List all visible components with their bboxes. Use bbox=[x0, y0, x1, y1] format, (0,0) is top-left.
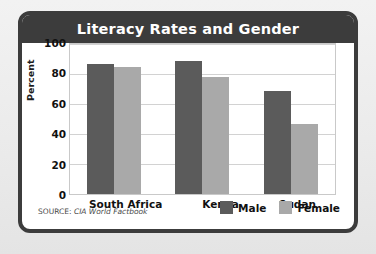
bar-female bbox=[202, 77, 229, 194]
bar-male bbox=[175, 61, 202, 195]
bar-male bbox=[264, 91, 291, 195]
legend-swatch-female bbox=[279, 201, 292, 214]
y-tick-label: 20 bbox=[51, 159, 66, 171]
legend-item: Male bbox=[220, 201, 266, 214]
bar-female bbox=[291, 124, 318, 195]
bar-group bbox=[87, 44, 141, 194]
y-tick-label: 60 bbox=[51, 98, 66, 110]
chart-legend: MaleFemale bbox=[220, 201, 340, 214]
legend-label: Male bbox=[238, 202, 266, 214]
y-axis-ticks: 020406080100 bbox=[36, 43, 66, 195]
chart-figure: Literacy Rates and Gender Percent 020406… bbox=[18, 11, 358, 233]
bar-group bbox=[264, 44, 318, 194]
y-tick-label: 80 bbox=[51, 67, 66, 79]
y-tick-label: 100 bbox=[44, 37, 66, 49]
source-note: SOURCE: CIA World Factbook bbox=[38, 207, 147, 216]
source-text: CIA World Factbook bbox=[74, 207, 148, 216]
page-title: Literacy Rates and Gender bbox=[77, 22, 299, 37]
chart-footer: SOURCE: CIA World Factbook MaleFemale bbox=[22, 199, 354, 229]
legend-label: Female bbox=[297, 202, 340, 214]
page-background: Literacy Rates and Gender Percent 020406… bbox=[0, 0, 376, 254]
bar-groups bbox=[70, 44, 335, 194]
source-label: SOURCE: bbox=[38, 207, 72, 216]
chart-title-bar: Literacy Rates and Gender bbox=[22, 15, 354, 43]
bar-group bbox=[175, 44, 229, 194]
y-tick-label: 40 bbox=[51, 128, 66, 140]
plot-area bbox=[69, 43, 336, 195]
bar-male bbox=[87, 64, 114, 195]
legend-swatch-male bbox=[220, 201, 233, 214]
y-axis-label: Percent bbox=[25, 60, 36, 101]
bar-female bbox=[114, 67, 141, 195]
legend-item: Female bbox=[279, 201, 340, 214]
